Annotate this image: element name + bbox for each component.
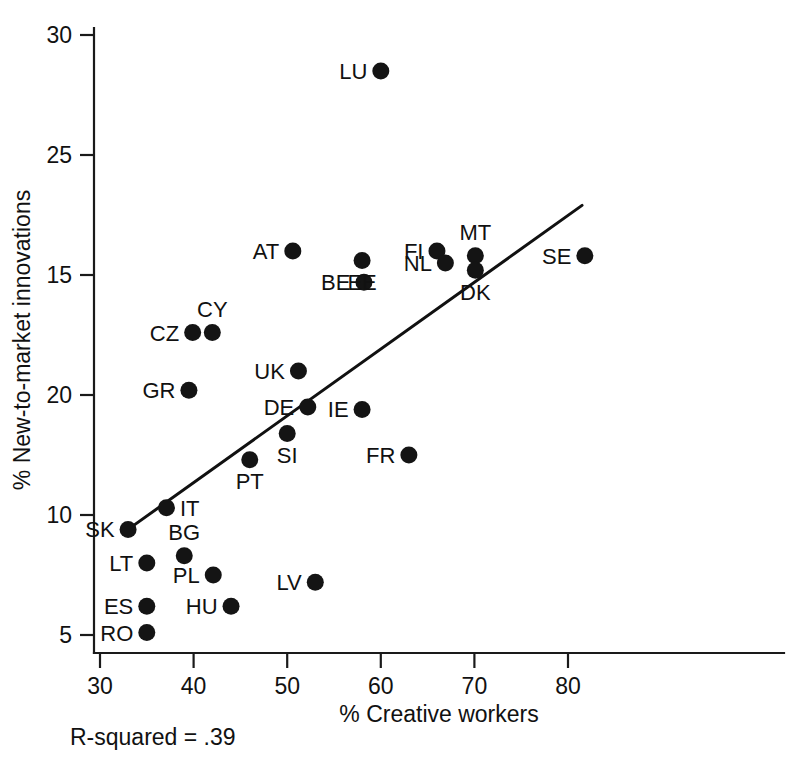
data-point-group: PL — [173, 563, 222, 588]
data-point-label: SI — [277, 443, 298, 468]
data-point-label: SE — [542, 244, 571, 269]
data-point-label: NL — [404, 251, 432, 276]
data-point-marker — [299, 399, 316, 416]
data-point-marker — [241, 451, 258, 468]
data-point-group: AT — [253, 239, 301, 264]
regression-line — [128, 205, 582, 529]
data-point-label: MT — [459, 220, 491, 245]
data-point-group: GR — [142, 378, 197, 403]
data-point-label: PT — [236, 469, 264, 494]
data-point-marker — [307, 574, 324, 591]
x-tick-label: 40 — [181, 673, 207, 699]
data-point-marker — [184, 324, 201, 341]
x-tick-label: 70 — [462, 673, 488, 699]
y-tick-label: 5 — [59, 622, 72, 648]
data-point-label: FR — [366, 443, 395, 468]
y-tick-label: 25 — [46, 142, 72, 168]
data-point-group: DE — [264, 395, 317, 420]
x-axis-ticks: 304050607080 — [87, 653, 581, 699]
scatter-chart-figure: 30251520105 304050607080 LUATFISEBEGRUKD… — [0, 0, 790, 766]
r-squared-annotation: R-squared = .39 — [70, 724, 236, 750]
data-point-marker — [204, 324, 221, 341]
data-point-group: PT — [236, 451, 264, 494]
data-point-marker — [354, 252, 371, 269]
scatter-plot-canvas: 30251520105 304050607080 LUATFISEBEGRUKD… — [0, 0, 790, 766]
data-point-label: LU — [339, 59, 367, 84]
x-tick-label: 50 — [274, 673, 300, 699]
y-axis-ticks: 30251520105 — [46, 22, 94, 648]
data-point-marker — [290, 363, 307, 380]
data-point-label: AT — [253, 239, 279, 264]
data-point-group: NL — [404, 251, 454, 276]
data-point-marker — [138, 624, 155, 641]
data-point-label: CY — [197, 297, 228, 322]
data-point-marker — [279, 425, 296, 442]
data-point-marker — [372, 63, 389, 80]
data-point-label: SK — [85, 517, 115, 542]
data-point-group: IT — [158, 496, 200, 521]
y-axis-title: % New-to-market innovations — [9, 190, 35, 490]
data-point-label: DK — [460, 280, 491, 305]
data-point-group: SK — [85, 517, 136, 542]
data-point-group: SE — [542, 244, 593, 269]
data-point-marker — [138, 555, 155, 572]
data-point-group: EE — [347, 252, 376, 295]
data-point-marker — [158, 499, 175, 516]
y-tick-label: 20 — [46, 382, 72, 408]
data-point-group: FR — [366, 443, 417, 468]
data-point-marker — [576, 247, 593, 264]
data-point-group: CZ — [150, 321, 201, 346]
data-point-marker — [180, 382, 197, 399]
data-point-group: UK — [254, 359, 307, 384]
data-point-label: IE — [328, 397, 349, 422]
data-point-label: BE — [321, 270, 350, 295]
data-point-marker — [354, 401, 371, 418]
data-point-label: RO — [100, 621, 133, 646]
data-point-marker — [467, 262, 484, 279]
axes — [94, 28, 784, 653]
data-point-group: MT — [459, 220, 491, 264]
data-point-label: BG — [168, 520, 200, 545]
data-point-group: DK — [460, 262, 491, 305]
y-tick-label: 15 — [46, 262, 72, 288]
data-point-marker — [138, 598, 155, 615]
data-point-label: LT — [109, 551, 133, 576]
data-point-group: LU — [339, 59, 389, 84]
y-tick-label: 30 — [46, 22, 72, 48]
data-point-marker — [120, 521, 137, 538]
regression-trendline — [128, 205, 582, 529]
data-point-label: CZ — [150, 321, 179, 346]
data-point-group: SI — [277, 425, 298, 468]
data-point-marker — [205, 567, 222, 584]
data-point-group: CY — [197, 297, 228, 341]
data-point-marker — [176, 547, 193, 564]
data-point-group: LV — [276, 570, 323, 595]
data-point-label: LV — [276, 570, 302, 595]
data-point-label: UK — [254, 359, 285, 384]
data-point-group: ES — [104, 594, 155, 619]
data-point-group: BG — [168, 520, 200, 564]
data-point-marker — [437, 255, 454, 272]
data-point-label: EE — [347, 270, 376, 295]
x-tick-label: 80 — [555, 673, 581, 699]
data-point-group: RO — [100, 621, 155, 646]
data-point-label: HU — [186, 594, 218, 619]
data-point-marker — [223, 598, 240, 615]
data-point-label: DE — [264, 395, 295, 420]
data-point-marker — [400, 447, 417, 464]
data-points-group: LUATFISEBEGRUKDEIESINLMTDKEECZCYPTFRITSK… — [85, 59, 593, 646]
data-point-group: LT — [109, 551, 155, 576]
data-point-label: ES — [104, 594, 133, 619]
x-axis-title: % Creative workers — [339, 701, 538, 727]
data-point-group: HU — [186, 594, 240, 619]
data-point-marker — [284, 243, 301, 260]
data-point-label: IT — [180, 496, 200, 521]
data-point-group: IE — [328, 397, 371, 422]
x-tick-label: 30 — [87, 673, 113, 699]
y-tick-label: 10 — [46, 502, 72, 528]
data-point-label: PL — [173, 563, 200, 588]
data-point-label: GR — [142, 378, 175, 403]
x-tick-label: 60 — [368, 673, 394, 699]
